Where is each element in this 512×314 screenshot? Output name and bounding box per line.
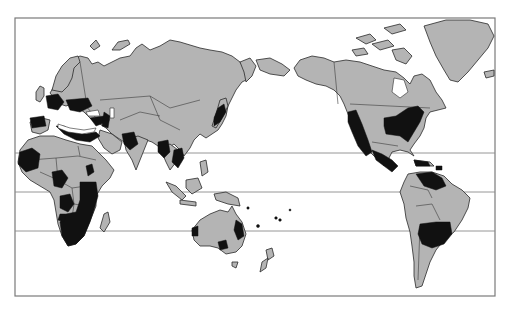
pacific-island [247,207,249,209]
highlight-western-australia [192,226,198,236]
caspian-sea [110,108,114,118]
pacific-island [257,225,260,228]
pacific-island [289,209,291,211]
highlight-hispaniola [436,166,442,170]
world-map [0,0,512,314]
highlight-iberia [30,116,46,128]
pacific-island [275,217,278,220]
pacific-island [279,219,282,222]
highlight-southeast-australia [218,240,228,250]
